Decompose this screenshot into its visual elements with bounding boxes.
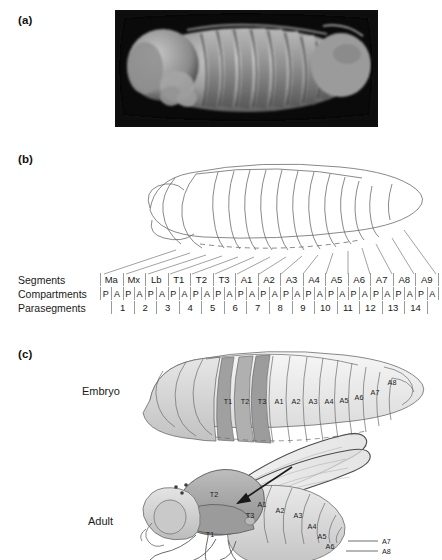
row-label-compartments: Compartments: [18, 288, 87, 300]
parasegment-rule: [111, 301, 112, 314]
adult-seg-T1: T1: [206, 530, 214, 539]
adult-seg-A7: A7: [382, 537, 391, 546]
embryo-seg-A3: A3: [309, 397, 318, 406]
parasegment-rule: [179, 301, 180, 314]
parasegment-cell: 7: [246, 302, 269, 314]
embryo-seg-A2: A2: [292, 397, 301, 406]
segment-rule: [415, 273, 416, 286]
segment-rule: [370, 273, 371, 286]
compartment-rule: [325, 287, 326, 300]
adult-seg-A6: A6: [326, 542, 335, 551]
compartment-cell: P: [123, 288, 134, 300]
parasegment-cell: 6: [224, 302, 247, 314]
row-label-segments: Segments: [18, 274, 65, 286]
adult-seg-A5: A5: [318, 532, 327, 541]
parasegment-cell: 4: [179, 302, 202, 314]
compartment-rule: [404, 287, 405, 300]
compartment-rule: [224, 287, 225, 300]
parasegment-cell: 5: [201, 302, 224, 314]
compartment-cell: A: [382, 288, 393, 300]
embryo-seg-A1: A1: [275, 397, 284, 406]
embryo-seg-T3: T3: [258, 397, 266, 406]
compartment-cell: P: [235, 288, 246, 300]
compartment-cell: A: [314, 288, 325, 300]
compartment-rule: [303, 287, 304, 300]
segment-cell: A5: [325, 274, 348, 286]
compartment-rule: [415, 287, 416, 300]
segment-grid: MaMxLbT1T2T3A1A2A3A4A5A6A7A8A9PAPAPAPAPA…: [100, 274, 438, 318]
segment-cell: A8: [393, 274, 416, 286]
parasegment-cell: 14: [404, 302, 427, 314]
parasegment-cell: 12: [359, 302, 382, 314]
embryo-seg-T2: T2: [241, 397, 249, 406]
compartment-rule: [280, 287, 281, 300]
segment-cell: Lb: [145, 274, 168, 286]
adult-seg-A4: A4: [308, 522, 317, 531]
parasegment-rule: [292, 301, 293, 314]
parasegment-cell: 3: [156, 302, 179, 314]
parasegment-rule: [404, 301, 405, 314]
parasegment-cell: 11: [337, 302, 360, 314]
compartment-rule: [235, 287, 236, 300]
segment-cell: A2: [258, 274, 281, 286]
embryo-seg-A5: A5: [340, 396, 349, 405]
segment-rule: [303, 273, 304, 286]
segment-rule: [393, 273, 394, 286]
compartment-rule: [168, 287, 169, 300]
compartment-cell: P: [393, 288, 404, 300]
parasegment-rule: [427, 301, 428, 314]
compartment-cell: P: [280, 288, 291, 300]
line-drawing-panel-b: [0, 150, 442, 275]
compartment-rule: [427, 287, 428, 300]
compartment-cell: A: [359, 288, 370, 300]
segment-cell: A4: [303, 274, 326, 286]
compartment-cell: P: [415, 288, 426, 300]
segment-rule: [258, 273, 259, 286]
embryo-seg-A7: A7: [371, 388, 380, 397]
parasegment-cell: 10: [314, 302, 337, 314]
compartment-cell: A: [201, 288, 212, 300]
segment-rule: [213, 273, 214, 286]
segment-rule: [190, 273, 191, 286]
parasegment-cell: 2: [134, 302, 157, 314]
parasegment-rule: [382, 301, 383, 314]
segment-rule: [100, 273, 101, 286]
segment-rule: [280, 273, 281, 286]
embryo-seg-T1: T1: [224, 397, 232, 406]
compartment-rule: [314, 287, 315, 300]
compartment-cell: P: [190, 288, 201, 300]
compartment-rule: [213, 287, 214, 300]
segment-annotation-table: Segments Compartments Parasegments MaMxL…: [0, 274, 442, 324]
compartment-rule: [393, 287, 394, 300]
compartment-cell: A: [337, 288, 348, 300]
compartment-cell: P: [303, 288, 314, 300]
segment-cell: Ma: [100, 274, 123, 286]
compartment-cell: A: [292, 288, 303, 300]
segment-cell: T3: [213, 274, 236, 286]
segment-rule: [123, 273, 124, 286]
compartment-cell: A: [224, 288, 235, 300]
compartment-rule: [292, 287, 293, 300]
compartment-rule: [201, 287, 202, 300]
compartment-cell: P: [258, 288, 269, 300]
adult-fly-diagram: T1 T2 T3 A1 A2 A3 A4 A5 A6 A7 A8: [0, 425, 442, 560]
parasegment-rule: [201, 301, 202, 314]
segment-cell: A3: [280, 274, 303, 286]
parasegment-rule: [359, 301, 360, 314]
parasegment-rule: [156, 301, 157, 314]
compartment-cell: A: [134, 288, 145, 300]
segment-cell: A1: [235, 274, 258, 286]
segment-cell: T2: [190, 274, 213, 286]
parasegment-rule: [314, 301, 315, 314]
parasegment-rule: [246, 301, 247, 314]
sem-micrograph-panel-a: [115, 10, 378, 127]
compartment-rule: [123, 287, 124, 300]
compartment-rule: [348, 287, 349, 300]
segment-cell: A9: [415, 274, 438, 286]
compartment-cell: P: [370, 288, 381, 300]
segment-cell: T1: [168, 274, 191, 286]
compartment-rule: [382, 287, 383, 300]
parasegment-rule: [337, 301, 338, 314]
compartment-cell: A: [404, 288, 415, 300]
adult-seg-A2: A2: [276, 506, 285, 515]
